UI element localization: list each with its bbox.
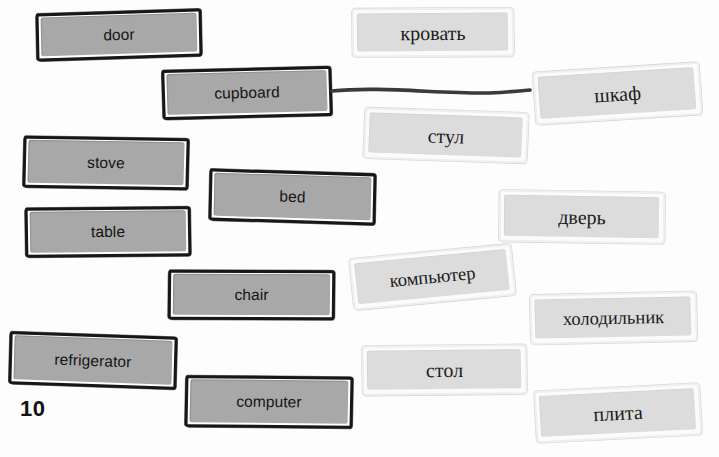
- word-card-en[interactable]: door: [36, 8, 203, 61]
- card-label: плита: [593, 402, 643, 424]
- card-label: table: [91, 224, 125, 240]
- word-card-ru[interactable]: кровать: [352, 8, 515, 58]
- match-line[interactable]: [332, 89, 530, 93]
- word-card-en[interactable]: cupboard: [161, 66, 333, 120]
- word-card-en[interactable]: stove: [22, 136, 189, 191]
- card-label: кровать: [400, 22, 465, 42]
- card-label: стул: [427, 125, 464, 146]
- word-card-ru[interactable]: плита: [534, 383, 703, 443]
- page-number: 10: [20, 396, 45, 422]
- word-card-en[interactable]: computer: [185, 375, 354, 429]
- card-label: stove: [87, 155, 125, 171]
- word-card-en[interactable]: refrigerator: [8, 331, 177, 390]
- word-card-ru[interactable]: шкаф: [532, 62, 703, 125]
- word-card-ru[interactable]: дверь: [499, 190, 665, 245]
- card-label: холодильник: [563, 308, 665, 329]
- word-card-en[interactable]: bed: [208, 169, 376, 226]
- card-label: стол: [426, 360, 463, 380]
- card-label: шкаф: [593, 82, 641, 105]
- card-label: cupboard: [214, 84, 280, 101]
- card-label: chair: [234, 287, 268, 303]
- word-card-en[interactable]: chair: [168, 270, 336, 321]
- word-card-en[interactable]: table: [25, 206, 192, 257]
- card-label: computer: [236, 394, 302, 410]
- word-card-ru[interactable]: компьютер: [349, 243, 517, 310]
- word-card-ru[interactable]: холодильник: [529, 291, 697, 344]
- word-card-ru[interactable]: стул: [363, 107, 529, 163]
- card-label: door: [103, 27, 135, 43]
- card-label: refrigerator: [54, 351, 131, 369]
- word-card-ru[interactable]: стол: [362, 344, 528, 396]
- worksheet-page: doorcupboardstovebedtablechairrefrigerat…: [0, 0, 719, 457]
- card-label: дверь: [558, 207, 606, 228]
- card-label: bed: [279, 189, 305, 205]
